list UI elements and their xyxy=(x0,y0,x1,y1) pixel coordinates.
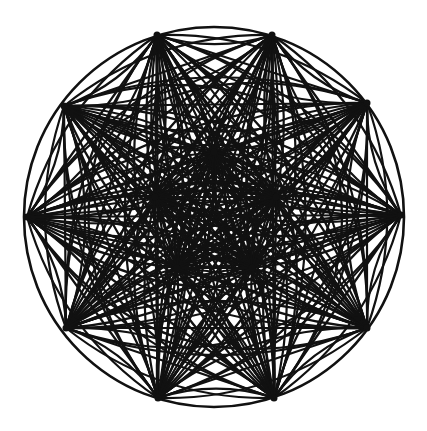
inner-hub-vertex xyxy=(152,194,159,201)
boundary-vertex xyxy=(63,325,70,332)
chord-arcs-group xyxy=(27,35,401,398)
inner-hub-vertex xyxy=(211,149,218,156)
line-arrangement-diagram xyxy=(0,0,427,431)
inner-hub-vertex xyxy=(273,194,280,201)
diagram-canvas xyxy=(0,0,427,431)
inner-hub-vertex xyxy=(174,265,181,272)
inner-hub-vertex xyxy=(249,265,256,272)
